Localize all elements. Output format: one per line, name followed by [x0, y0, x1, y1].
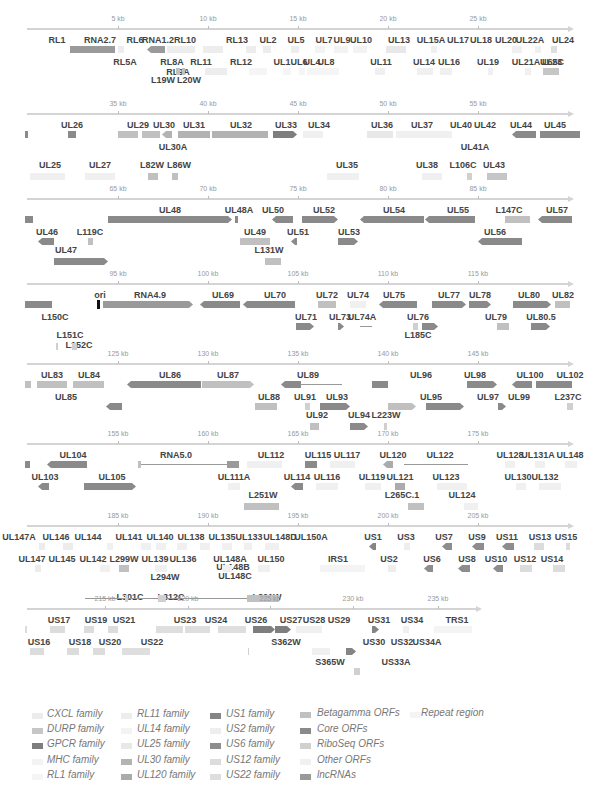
- gene-feature[interactable]: [404, 543, 410, 550]
- gene-feature[interactable]: [30, 173, 65, 180]
- gene-feature[interactable]: [525, 68, 531, 75]
- gene-feature[interactable]: [396, 131, 452, 138]
- gene-feature[interactable]: [240, 238, 270, 245]
- gene-feature[interactable]: [426, 403, 464, 410]
- gene-feature[interactable]: [281, 381, 301, 388]
- gene-feature[interactable]: [97, 300, 100, 309]
- gene-feature[interactable]: [302, 216, 338, 223]
- gene-feature[interactable]: [39, 543, 45, 550]
- gene-feature[interactable]: [375, 68, 385, 75]
- gene-feature[interactable]: [291, 46, 299, 53]
- gene-feature[interactable]: [244, 543, 252, 550]
- gene-feature[interactable]: [50, 626, 65, 633]
- gene-feature[interactable]: [367, 131, 393, 138]
- gene-feature[interactable]: [177, 543, 187, 550]
- gene-feature[interactable]: [535, 461, 545, 468]
- gene-feature[interactable]: [502, 543, 514, 550]
- gene-feature[interactable]: [538, 216, 572, 223]
- gene-feature[interactable]: [172, 173, 178, 180]
- gene-feature[interactable]: [440, 68, 452, 75]
- gene-feature[interactable]: [67, 648, 79, 655]
- gene-feature[interactable]: [334, 46, 348, 53]
- gene-feature[interactable]: [505, 216, 530, 223]
- gene-feature[interactable]: [283, 68, 291, 75]
- gene-feature[interactable]: [488, 68, 493, 75]
- gene-feature[interactable]: [263, 46, 271, 53]
- gene-feature[interactable]: [386, 46, 406, 53]
- gene-feature[interactable]: [303, 131, 323, 138]
- gene-feature[interactable]: [142, 131, 160, 138]
- gene-feature[interactable]: [431, 46, 437, 53]
- gene-feature[interactable]: [327, 173, 359, 180]
- gene-feature[interactable]: [299, 68, 305, 75]
- gene-feature[interactable]: [360, 216, 424, 223]
- gene-feature[interactable]: [512, 46, 522, 53]
- gene-feature[interactable]: [205, 68, 227, 75]
- gene-feature[interactable]: [520, 565, 532, 572]
- gene-feature[interactable]: [107, 543, 113, 550]
- gene-feature[interactable]: [73, 381, 104, 388]
- gene-feature[interactable]: [25, 626, 27, 633]
- gene-feature[interactable]: [118, 131, 138, 138]
- gene-feature[interactable]: [122, 648, 150, 655]
- gene-feature[interactable]: [265, 258, 281, 265]
- gene-feature[interactable]: [93, 648, 105, 655]
- gene-feature[interactable]: [203, 46, 223, 53]
- gene-feature[interactable]: [330, 461, 355, 468]
- gene-feature[interactable]: [202, 381, 254, 388]
- gene-feature[interactable]: [85, 173, 115, 180]
- gene-feature[interactable]: [567, 403, 573, 410]
- gene-feature[interactable]: [350, 423, 368, 430]
- gene-feature[interactable]: [255, 403, 277, 410]
- gene-feature[interactable]: [244, 503, 279, 510]
- gene-feature[interactable]: [141, 543, 151, 550]
- gene-feature[interactable]: [54, 258, 108, 265]
- gene-feature[interactable]: [218, 626, 246, 633]
- gene-feature[interactable]: [467, 173, 472, 180]
- gene-feature[interactable]: [487, 173, 507, 180]
- gene-feature[interactable]: [148, 173, 158, 180]
- gene-feature[interactable]: [247, 461, 282, 468]
- gene-feature[interactable]: [222, 543, 232, 550]
- gene-feature[interactable]: [253, 626, 275, 633]
- gene-feature[interactable]: [182, 68, 185, 75]
- gene-feature[interactable]: [200, 301, 240, 308]
- gene-feature[interactable]: [249, 68, 267, 75]
- gene-feature[interactable]: [272, 216, 293, 223]
- gene-feature[interactable]: [88, 238, 93, 245]
- gene-feature[interactable]: [84, 483, 136, 490]
- gene-feature[interactable]: [505, 461, 515, 468]
- gene-feature[interactable]: [565, 461, 577, 468]
- gene-feature[interactable]: [512, 381, 532, 388]
- gene-feature[interactable]: [365, 483, 381, 490]
- gene-feature[interactable]: [467, 381, 497, 388]
- gene-feature[interactable]: [553, 565, 565, 572]
- gene-feature[interactable]: [408, 503, 424, 510]
- gene-feature[interactable]: [516, 483, 526, 490]
- gene-feature[interactable]: [539, 483, 561, 490]
- gene-feature[interactable]: [320, 403, 350, 410]
- gene-feature[interactable]: [369, 543, 376, 550]
- gene-feature[interactable]: [212, 131, 268, 138]
- gene-feature[interactable]: [291, 238, 297, 245]
- gene-feature[interactable]: [108, 626, 118, 633]
- gene-feature[interactable]: [551, 46, 557, 53]
- gene-feature[interactable]: [25, 301, 52, 308]
- gene-feature[interactable]: [403, 626, 409, 633]
- gene-feature[interactable]: [316, 483, 338, 490]
- gene-feature[interactable]: [442, 543, 452, 550]
- gene-feature[interactable]: [422, 173, 442, 180]
- gene-feature[interactable]: [388, 403, 416, 410]
- gene-feature[interactable]: [296, 626, 322, 633]
- gene-feature[interactable]: [246, 46, 256, 53]
- gene-feature[interactable]: [434, 626, 472, 633]
- gene-feature[interactable]: [425, 216, 475, 223]
- gene-feature[interactable]: [372, 381, 388, 388]
- gene-feature[interactable]: [536, 381, 572, 388]
- gene-feature[interactable]: [338, 323, 344, 330]
- gene-feature[interactable]: [243, 301, 295, 308]
- gene-feature[interactable]: [338, 238, 358, 245]
- gene-feature[interactable]: [354, 668, 360, 675]
- gene-feature[interactable]: [566, 543, 570, 550]
- gene-feature[interactable]: [320, 565, 365, 572]
